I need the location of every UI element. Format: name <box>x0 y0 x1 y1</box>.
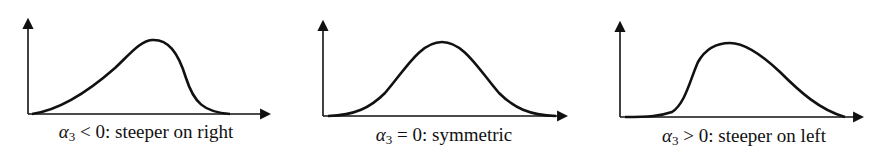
panel-symmetric <box>323 22 566 116</box>
alpha-symbol: α <box>662 125 672 146</box>
panel-negative-skew <box>28 20 269 114</box>
caption-symmetric: α3 = 0: symmetric <box>376 124 512 148</box>
alpha-symbol: α <box>376 124 386 145</box>
panel-positive-skew <box>620 23 862 117</box>
alpha-symbol: α <box>59 121 69 142</box>
density-curve <box>328 42 556 116</box>
density-curve <box>625 43 845 117</box>
caption-positive-skew: α3 > 0: steeper on left <box>662 125 826 149</box>
caption-negative-skew: α3 < 0: steeper on right <box>59 121 233 145</box>
density-curve <box>32 40 230 114</box>
